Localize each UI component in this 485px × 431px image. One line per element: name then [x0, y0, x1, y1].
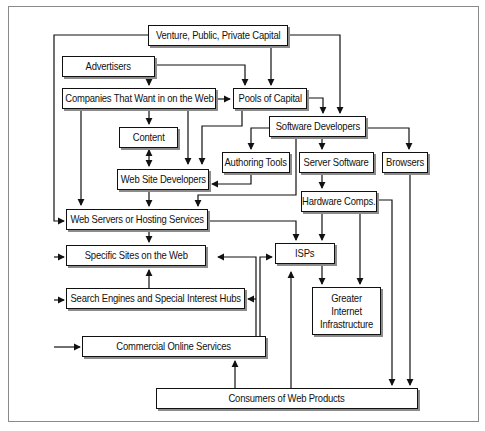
node-label: Hardware Comps. [302, 195, 375, 208]
node-label: Search Engines and Special Interest Hubs [70, 292, 240, 305]
node-label: Pools of Capital [238, 92, 301, 105]
node-companies-that-want-in-on-the-web: Companies That Want in on the Web [62, 88, 216, 109]
node-label: Specific Sites on the Web [84, 249, 187, 262]
node-search-engines-and-special-interest-hubs: Search Engines and Special Interest Hubs [66, 288, 245, 309]
node-label: Companies That Want in on the Web [65, 92, 213, 105]
node-label: Browsers [386, 156, 424, 169]
node-label: Authoring Tools [225, 156, 287, 169]
node-consumers-of-web-products: Consumers of Web Products [156, 388, 418, 409]
node-commercial-online-services: Commercial Online Services [82, 336, 266, 357]
node-hardware-comps: Hardware Comps. [301, 191, 377, 212]
node-server-software: Server Software [299, 152, 374, 173]
node-authoring-tools: Authoring Tools [222, 152, 290, 173]
node-label: Advertisers [86, 60, 131, 73]
node-venture-public-private-capital: Venture, Public, Private Capital [148, 25, 288, 46]
node-specific-sites-on-the-web: Specific Sites on the Web [66, 245, 206, 266]
node-label: Commercial Online Services [117, 340, 232, 353]
node-software-developers: Software Developers [269, 116, 366, 137]
node-label: ISPs [295, 247, 314, 260]
node-web-site-developers: Web Site Developers [117, 169, 209, 190]
node-browsers: Browsers [382, 152, 428, 173]
node-label: Web Site Developers [120, 173, 205, 186]
node-label: Server Software [304, 156, 369, 169]
node-web-servers-or-hosting-services: Web Servers or Hosting Services [66, 209, 208, 230]
node-label: Venture, Public, Private Capital [156, 29, 281, 42]
node-content: Content [119, 127, 178, 148]
node-label: Software Developers [275, 120, 359, 133]
node-label: Consumers of Web Products [229, 392, 345, 405]
node-isps: ISPs [275, 243, 335, 264]
node-advertisers: Advertisers [62, 56, 155, 77]
node-label: Content [133, 131, 165, 144]
node-label: Greater Internet Infrastructure [320, 292, 373, 331]
node-greater-internet-infrastructure: Greater Internet Infrastructure [312, 287, 381, 335]
node-label: Web Servers or Hosting Services [70, 213, 203, 226]
node-pools-of-capital: Pools of Capital [233, 88, 307, 109]
